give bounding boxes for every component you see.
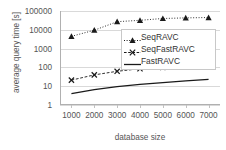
data-point-marker <box>205 14 211 20</box>
y-tick-label: 10 <box>4 82 52 91</box>
x-axis-title: database size <box>58 133 222 142</box>
y-tick-label: 100000 <box>4 7 52 16</box>
x-tick-mark <box>94 105 95 108</box>
x-tick-label: 7000 <box>193 111 225 120</box>
x-tick-mark <box>71 105 72 108</box>
legend-marker-line-icon <box>124 56 141 67</box>
legend-item-fastravc[interactable]: FastRAVC <box>124 55 213 67</box>
y-tick-label: 100 <box>4 63 52 72</box>
chart-container: average query time [s] database size 110… <box>0 0 226 150</box>
legend-label-seqfastravc: SeqFastRAVC <box>141 44 195 55</box>
x-tick-mark <box>117 105 118 108</box>
series-line-fastravc <box>71 79 208 93</box>
y-tick-label: 1 <box>4 101 52 110</box>
y-tick-label: 1000 <box>4 44 52 53</box>
data-point-marker <box>115 69 120 74</box>
data-point-marker <box>114 19 120 25</box>
data-point-marker <box>91 27 97 33</box>
legend-item-seqfastravc[interactable]: SeqFastRAVC <box>124 43 213 55</box>
x-tick-mark <box>209 105 210 108</box>
data-point-marker <box>68 33 74 39</box>
legend-marker-triangle-icon <box>124 32 141 43</box>
y-tick-label: 10000 <box>4 25 52 34</box>
legend-label-seqravc: SeqRAVC <box>141 32 179 43</box>
legend: SeqRAVC SeqFastRAVC FastRAVC <box>121 29 216 70</box>
legend-item-seqravc[interactable]: SeqRAVC <box>124 31 213 43</box>
legend-label-fastravc: FastRAVC <box>141 56 180 67</box>
x-tick-mark <box>140 105 141 108</box>
x-tick-mark <box>186 105 187 108</box>
x-tick-mark <box>163 105 164 108</box>
data-point-marker <box>160 15 166 21</box>
legend-marker-x-icon <box>124 44 141 55</box>
